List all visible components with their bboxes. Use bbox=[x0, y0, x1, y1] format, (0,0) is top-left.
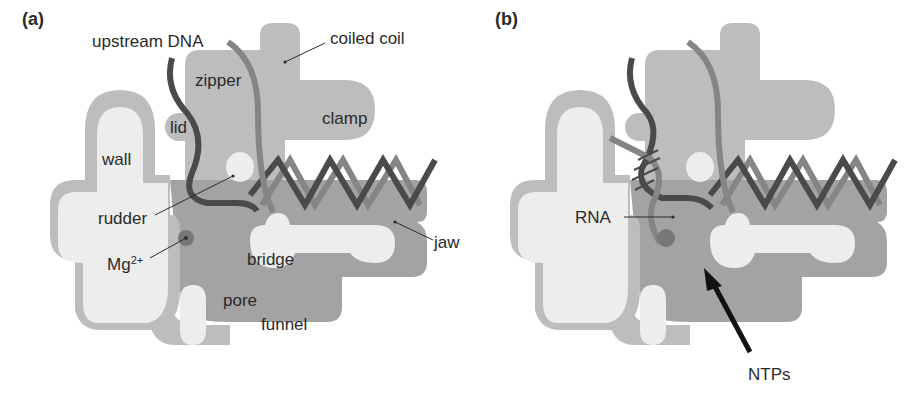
label-zipper: zipper bbox=[195, 71, 242, 90]
panel-a-label: (a) bbox=[22, 9, 44, 29]
mg-ion-dot-b bbox=[657, 229, 675, 247]
label-ntps: NTPs bbox=[748, 365, 791, 384]
label-rudder: rudder bbox=[98, 209, 147, 228]
label-bridge: bridge bbox=[247, 250, 294, 269]
rna-polymerase-diagram: (a) upstream DNA coiled coil zipper lid … bbox=[0, 0, 910, 397]
label-coiled-coil: coiled coil bbox=[330, 29, 405, 48]
panel-b-label: (b) bbox=[495, 9, 518, 29]
label-rna: RNA bbox=[575, 208, 612, 227]
panel-a: (a) upstream DNA coiled coil zipper lid … bbox=[22, 9, 460, 345]
label-lid: lid bbox=[170, 118, 187, 137]
label-clamp: clamp bbox=[322, 109, 367, 128]
label-wall: wall bbox=[101, 150, 131, 169]
label-upstream-dna: upstream DNA bbox=[92, 32, 204, 51]
label-funnel: funnel bbox=[261, 315, 307, 334]
panel-b: (b) RNA NTPs bbox=[495, 9, 895, 384]
label-jaw: jaw bbox=[433, 233, 460, 252]
label-pore: pore bbox=[223, 291, 257, 310]
